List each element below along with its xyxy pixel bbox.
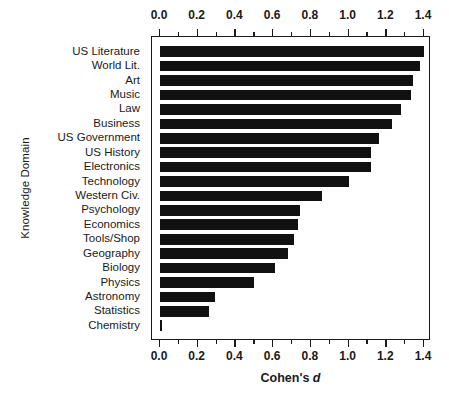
y-axis-tick-label: US Literature bbox=[24, 45, 140, 57]
x-axis-tick-label: 1.0 bbox=[339, 8, 356, 22]
x-axis-tick-label: 0.6 bbox=[264, 349, 281, 363]
x-axis-minor-tick bbox=[216, 340, 217, 344]
bar bbox=[160, 263, 275, 274]
bar bbox=[160, 162, 371, 173]
x-axis-title-italic: d bbox=[313, 371, 321, 385]
x-axis-top-tick-labels: 0.00.20.40.60.81.01.21.4 bbox=[151, 8, 430, 24]
x-axis-tick-label: 0.0 bbox=[151, 349, 168, 363]
bar bbox=[160, 234, 294, 245]
x-axis-major-tick bbox=[272, 340, 273, 347]
x-axis-tick-label: 0.6 bbox=[264, 8, 281, 22]
y-axis-tick-label: Chemistry bbox=[24, 319, 140, 331]
x-axis-tick-label: 1.4 bbox=[415, 8, 432, 22]
x-axis-major-tick bbox=[197, 29, 198, 36]
x-axis-title-text: Cohen's bbox=[261, 371, 313, 385]
x-axis-tick-label: 0.2 bbox=[188, 8, 205, 22]
bar bbox=[160, 205, 300, 216]
x-axis-major-tick bbox=[348, 29, 349, 36]
x-axis-minor-tick bbox=[329, 340, 330, 344]
x-axis-major-tick bbox=[310, 340, 311, 347]
y-axis-category-labels: US LiteratureWorld Lit.ArtMusicLawBusine… bbox=[24, 40, 140, 340]
bar bbox=[160, 176, 349, 187]
x-axis-bottom-tick-labels: 0.00.20.40.60.81.01.21.4 bbox=[151, 349, 430, 365]
x-axis-top-ticks bbox=[151, 28, 430, 36]
x-axis-bottom-ticks bbox=[151, 340, 430, 348]
y-axis-tick-label: World Lit. bbox=[24, 59, 140, 71]
y-axis-tick-label: Tools/Shop bbox=[24, 232, 140, 244]
x-axis-tick-label: 0.0 bbox=[151, 8, 168, 22]
x-axis-major-tick bbox=[310, 29, 311, 36]
x-axis-major-tick bbox=[385, 29, 386, 36]
x-axis-major-tick bbox=[159, 340, 160, 347]
y-axis-tick-label: Technology bbox=[24, 175, 140, 187]
y-axis-tick-label: Music bbox=[24, 88, 140, 100]
x-axis-major-tick bbox=[385, 340, 386, 347]
bar bbox=[160, 133, 379, 144]
y-axis-tick-label: Astronomy bbox=[24, 290, 140, 302]
bar-chart-figure: Knowledge Domain US LiteratureWorld Lit.… bbox=[0, 0, 449, 402]
bar bbox=[160, 90, 411, 101]
x-axis-minor-tick bbox=[366, 340, 367, 344]
bar bbox=[160, 147, 371, 158]
y-axis-tick-label: Geography bbox=[24, 247, 140, 259]
bar bbox=[160, 306, 209, 317]
bar bbox=[160, 277, 254, 288]
x-axis-major-tick bbox=[272, 29, 273, 36]
bar bbox=[160, 191, 322, 202]
y-axis-tick-label: Economics bbox=[24, 218, 140, 230]
x-axis-tick-label: 0.8 bbox=[302, 8, 319, 22]
x-axis-major-tick bbox=[423, 340, 424, 347]
plot-area bbox=[151, 36, 430, 340]
x-axis-major-tick bbox=[197, 340, 198, 347]
y-axis-tick-label: US Government bbox=[24, 131, 140, 143]
x-axis-tick-label: 0.4 bbox=[226, 349, 243, 363]
bar bbox=[160, 320, 162, 331]
x-axis-major-tick bbox=[348, 340, 349, 347]
y-axis-tick-label: Business bbox=[24, 117, 140, 129]
bar-series bbox=[152, 37, 429, 339]
x-axis-major-tick bbox=[423, 29, 424, 36]
y-axis-tick-label: Statistics bbox=[24, 304, 140, 316]
y-axis-tick-label: Western Civ. bbox=[24, 189, 140, 201]
bar bbox=[160, 119, 392, 130]
y-axis-tick-label: US History bbox=[24, 146, 140, 158]
x-axis-tick-label: 0.4 bbox=[226, 8, 243, 22]
bar bbox=[160, 104, 401, 115]
x-axis-tick-label: 0.8 bbox=[302, 349, 319, 363]
x-axis-major-tick bbox=[234, 340, 235, 347]
x-axis-title: Cohen's d bbox=[151, 371, 430, 385]
x-axis-tick-label: 1.2 bbox=[377, 8, 394, 22]
x-axis-tick-label: 1.0 bbox=[339, 349, 356, 363]
bar bbox=[160, 248, 288, 259]
y-axis-tick-label: Biology bbox=[24, 261, 140, 273]
x-axis-minor-tick bbox=[253, 340, 254, 344]
x-axis-minor-tick bbox=[404, 340, 405, 344]
x-axis-tick-label: 0.2 bbox=[188, 349, 205, 363]
y-axis-tick-label: Art bbox=[24, 74, 140, 86]
x-axis-tick-label: 1.4 bbox=[415, 349, 432, 363]
bar bbox=[160, 61, 420, 72]
bar bbox=[160, 219, 298, 230]
x-axis-minor-tick bbox=[178, 340, 179, 344]
x-axis-major-tick bbox=[159, 29, 160, 36]
y-axis-tick-label: Psychology bbox=[24, 203, 140, 215]
bar bbox=[160, 46, 424, 57]
bar bbox=[160, 292, 215, 303]
x-axis-minor-tick bbox=[291, 340, 292, 344]
y-axis-tick-label: Physics bbox=[24, 276, 140, 288]
x-axis-major-tick bbox=[234, 29, 235, 36]
y-axis-tick-label: Law bbox=[24, 102, 140, 114]
y-axis-tick-label: Electronics bbox=[24, 160, 140, 172]
bar bbox=[160, 75, 413, 86]
x-axis-tick-label: 1.2 bbox=[377, 349, 394, 363]
